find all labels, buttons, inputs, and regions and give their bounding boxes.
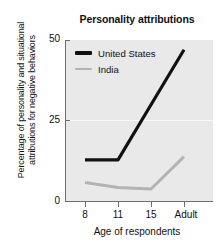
x-tick-label-8: 8: [82, 209, 88, 220]
x-tick-label-15: 15: [145, 209, 156, 220]
x-tick-label-adult: Adult: [175, 209, 198, 220]
legend-swatch-india: [75, 68, 92, 71]
y-tick-label-0: 0: [0, 195, 60, 206]
legend-swatch-united-states: [75, 51, 92, 55]
x-axis-label: Age of respondents: [56, 226, 218, 237]
y-tick-label-50: 50: [0, 33, 60, 44]
legend-item-united-states: United States: [75, 46, 156, 60]
x-tick-mark-11: [118, 202, 119, 207]
legend-label-united-states: United States: [98, 48, 156, 59]
legend-item-india: India: [75, 62, 156, 76]
chart-figure: Personality attributions Percentage of p…: [0, 0, 224, 243]
legend-label-india: India: [98, 64, 119, 75]
y-axis-label: Percentage of personality and situationa…: [16, 22, 39, 178]
chart-legend: United States India: [75, 46, 156, 78]
x-tick-label-11: 11: [113, 209, 123, 220]
x-tick-mark-adult: [184, 202, 185, 207]
y-tick-label-25: 25: [0, 114, 60, 125]
x-tick-mark-8: [85, 202, 86, 207]
x-tick-mark-15: [151, 202, 152, 207]
line-series-india: [85, 157, 184, 189]
chart-title: Personality attributions: [56, 13, 218, 25]
